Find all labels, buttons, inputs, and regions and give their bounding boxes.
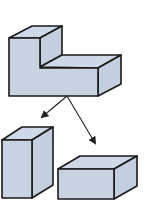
tall-block — [2, 127, 53, 198]
decomposition-diagram — [0, 0, 147, 210]
tall-block-side-face — [32, 127, 53, 198]
arrow-to-flat-block — [67, 96, 95, 143]
l-shaped-solid — [9, 26, 121, 96]
flat-block — [58, 156, 137, 199]
tall-block-front-face — [2, 140, 32, 198]
arrow-to-tall-block — [42, 96, 67, 117]
flat-block-front-face — [58, 169, 114, 199]
